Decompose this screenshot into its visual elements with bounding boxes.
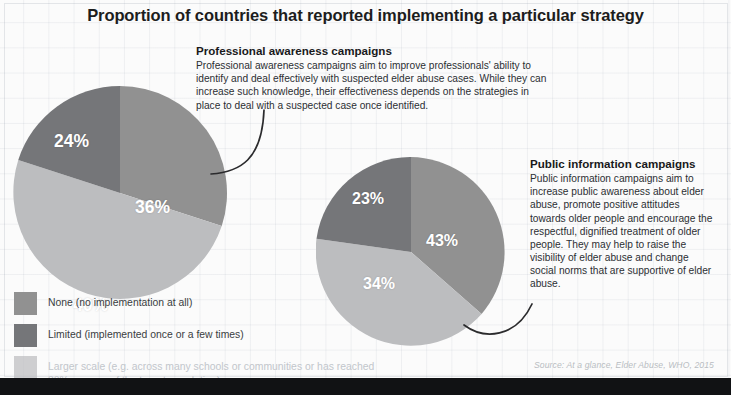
infographic-canvas: Proportion of countries that reported im… [0, 0, 731, 395]
callout-public-information: Public information campaigns Public info… [530, 157, 715, 290]
callout-professional-awareness: Professional awareness campaigns Profess… [196, 44, 548, 112]
bottom-edge-band [0, 378, 731, 395]
callout-left-heading: Professional awareness campaigns [196, 44, 548, 58]
pie-chart-professional-awareness: 36% 40% 24% [13, 86, 227, 300]
legend-swatch-larger-scale [14, 356, 37, 379]
pie-left-svg [13, 86, 227, 300]
legend-swatch-none [14, 292, 37, 315]
callout-right-body: Public information campaigns aim to incr… [530, 172, 715, 289]
source-citation: Source: At a glance, Elder Abuse, WHO, 2… [534, 360, 714, 370]
page-title: Proportion of countries that reported im… [0, 6, 731, 25]
pie-right-slice-limited[interactable] [316, 157, 411, 252]
callout-right-heading: Public information campaigns [530, 157, 715, 171]
legend-label-none: None (no implementation at all) [48, 292, 192, 310]
legend-item-limited[interactable]: Limited (implemented once or a few times… [14, 324, 434, 347]
legend-item-none[interactable]: None (no implementation at all) [14, 292, 434, 315]
legend-swatch-limited [14, 324, 37, 347]
callout-left-body: Professional awareness campaigns aim to … [196, 59, 548, 111]
legend-label-limited: Limited (implemented once or a few times… [48, 324, 244, 342]
